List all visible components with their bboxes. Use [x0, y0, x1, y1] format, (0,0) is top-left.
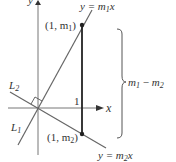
equation-lower: y = m2x [97, 149, 133, 162]
line-L2-label: L2 [8, 79, 19, 93]
line-L1-label: L1 [10, 121, 21, 135]
brace-label: m1 − m2 [128, 76, 164, 90]
brace-icon [117, 29, 126, 138]
y-axis-arrow-icon [35, 0, 41, 5]
point-1-m2 [80, 132, 84, 136]
y-axis-label: y [27, 0, 33, 6]
x-axis-label: x [105, 101, 112, 115]
perpendicular-lines-diagram: y x 1 (1, m1) (1, m2) y = m1x y = m2x L2… [0, 0, 176, 162]
point-label-lower: (1, m2) [47, 131, 78, 145]
x-axis-arrow-icon [96, 105, 104, 111]
point-1-m1 [80, 23, 84, 27]
point-label-upper: (1, m1) [45, 19, 76, 33]
right-angle-marker [31, 97, 42, 104]
equation-upper: y = m1x [79, 0, 115, 14]
tick-label-1: 1 [74, 95, 80, 107]
